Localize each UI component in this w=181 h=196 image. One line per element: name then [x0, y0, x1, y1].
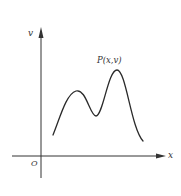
curve-line — [53, 70, 143, 141]
y-axis-arrow-icon — [39, 27, 44, 38]
y-axis-label: v — [28, 29, 33, 38]
origin-label: O — [31, 160, 38, 168]
x-axis-label: x — [168, 151, 173, 160]
x-axis-arrow-icon — [156, 154, 166, 159]
point-annotation: P(x,v) — [97, 56, 122, 65]
